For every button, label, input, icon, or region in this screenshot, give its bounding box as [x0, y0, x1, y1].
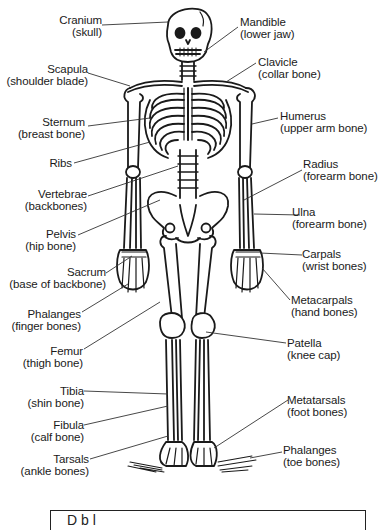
label-pelvis: Pelvis (hip bone) — [25, 228, 76, 252]
leader-clavicle — [226, 63, 256, 82]
left-leg-drawing — [160, 236, 188, 466]
label-mandible: Mandible (lower jaw) — [240, 16, 295, 40]
leader-sternum — [88, 118, 150, 126]
label-humerus: Humerus (upper arm bone) — [280, 110, 367, 134]
right-arm-drawing — [231, 88, 263, 292]
label-femur: Femur (thigh bone) — [23, 345, 83, 369]
label-tibia: Tibia (shin bone) — [28, 385, 84, 409]
leader-radius — [244, 170, 302, 200]
ribcage-drawing — [145, 88, 231, 158]
caption-box: D b l — [50, 510, 366, 530]
label-vertebrae: Vertebrae (backbones) — [25, 188, 87, 212]
right-leg-drawing — [191, 236, 217, 466]
leader-phalanges-toe — [250, 452, 282, 458]
neck-drawing — [180, 62, 196, 80]
label-sternum: Sternum (breast bone) — [18, 116, 85, 140]
leader-cranium — [102, 22, 168, 25]
leader-metacarpals — [262, 268, 290, 300]
label-phalanges-toe: Phalanges (toe bones) — [283, 444, 340, 468]
label-tarsals: Tarsals (ankle bones) — [21, 453, 89, 477]
leader-femur — [84, 302, 160, 349]
label-phalanges-finger: Phalanges (finger bones) — [11, 308, 81, 332]
label-metatarsals: Metatarsals (foot bones) — [287, 394, 347, 418]
label-metacarpals: Metacarpals (hand bones) — [291, 294, 358, 318]
label-patella: Patella (knee cap) — [287, 337, 340, 361]
skull-drawing — [167, 9, 212, 62]
label-radius: Radius (forearm bone) — [303, 158, 378, 182]
leader-scapula — [88, 73, 130, 86]
label-fibula: Fibula (calf bone) — [31, 419, 84, 443]
label-sacrum: Sacrum (base of backbone) — [9, 266, 106, 290]
spine-drawing — [178, 150, 198, 198]
label-carpals: Carpals (wrist bones) — [302, 248, 367, 272]
leader-humerus — [252, 118, 278, 124]
caption-text: D b l — [67, 512, 96, 528]
leader-fibula — [84, 406, 168, 425]
leader-tibia — [84, 391, 168, 394]
pelvis-drawing — [148, 192, 228, 243]
leader-pelvis — [78, 200, 160, 235]
label-cranium: Cranium (skull) — [59, 14, 102, 38]
leader-tarsals — [90, 436, 168, 459]
label-ribs: Ribs — [49, 157, 72, 169]
label-clavicle: Clavicle (collar bone) — [258, 56, 321, 80]
label-ulna: Ulna (forearm bone) — [292, 206, 367, 230]
leader-patella — [206, 332, 286, 343]
leader-carpals — [260, 253, 302, 255]
leader-metatarsals — [214, 400, 288, 448]
label-scapula: Scapula (shoulder blade) — [6, 63, 88, 87]
